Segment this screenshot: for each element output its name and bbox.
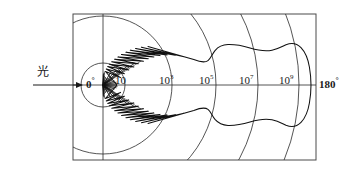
exponent-7: 7 — [250, 73, 254, 81]
radial-tick-label-10e7: 107 — [239, 75, 254, 86]
degree-sign-end: ° — [336, 76, 339, 85]
grid-arc-10e7 — [0, 0, 258, 174]
polar-scattering-plot — [0, 0, 354, 174]
exponent-9: 9 — [290, 73, 294, 81]
incident-light-label: 光 — [37, 66, 49, 78]
angle-label-0deg: 0° — [86, 79, 95, 90]
exponent-5: 5 — [210, 73, 214, 81]
radial-tick-label-10e9: 109 — [279, 75, 294, 86]
exponent-3: 3 — [170, 73, 174, 81]
degree-sign-start: ° — [92, 76, 95, 85]
angle-label-180deg: 180° — [319, 79, 339, 90]
radial-tick-label-10e3: 103 — [159, 75, 174, 86]
grid-arc-10e9 — [0, 0, 299, 174]
figure-container: 10 103 105 107 109 光 0° 180° — [0, 0, 354, 174]
radial-tick-label-10e5: 105 — [199, 75, 214, 86]
radial-tick-label-10e1: 10 — [115, 75, 126, 86]
